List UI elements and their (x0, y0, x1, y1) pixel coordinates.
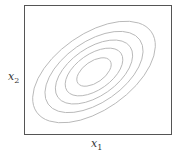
contour-line-5 (72, 52, 116, 92)
contour-plot: x1 x2 (0, 0, 176, 152)
x-axis-label: x1 (91, 137, 102, 152)
contour-group (15, 1, 173, 144)
plot-frame (25, 6, 172, 135)
contour-line-2 (31, 15, 158, 129)
y-axis-label: x2 (8, 70, 19, 85)
contour-line-4 (57, 38, 131, 105)
contour-line-3 (44, 27, 144, 117)
contour-line-1 (15, 1, 173, 144)
